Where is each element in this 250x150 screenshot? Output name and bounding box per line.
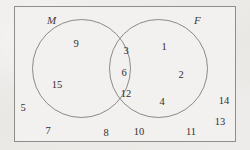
- venn-diagram: M F 915361212457810111314: [0, 0, 250, 150]
- venn-element-13: 13: [215, 117, 226, 128]
- venn-element-10: 10: [134, 127, 145, 138]
- venn-element-11: 11: [186, 127, 196, 138]
- venn-element-4: 4: [159, 97, 164, 108]
- venn-element-9: 9: [73, 39, 78, 50]
- venn-element-12: 12: [121, 89, 132, 100]
- set-label-f: F: [194, 15, 201, 26]
- venn-element-1: 1: [161, 42, 166, 53]
- venn-element-6: 6: [121, 68, 126, 79]
- venn-element-15: 15: [52, 80, 63, 91]
- venn-element-2: 2: [178, 70, 183, 81]
- venn-element-5: 5: [20, 103, 25, 114]
- set-label-m: M: [47, 15, 56, 26]
- venn-element-14: 14: [219, 96, 230, 107]
- venn-element-8: 8: [103, 128, 108, 139]
- venn-element-7: 7: [45, 126, 50, 137]
- venn-element-3: 3: [123, 46, 128, 57]
